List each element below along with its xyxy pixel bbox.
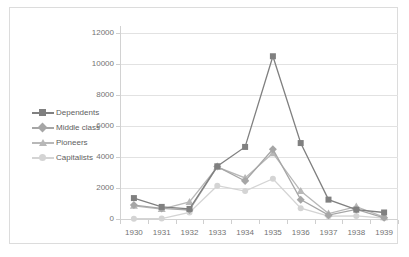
legend-key-icon (32, 123, 54, 133)
data-point-marker (353, 213, 359, 219)
data-point-marker (214, 183, 220, 189)
legend-item-middle-class[interactable]: Middle class (32, 120, 114, 135)
data-point-marker (214, 163, 220, 169)
series-line (134, 56, 384, 212)
series-middle-class (130, 145, 388, 222)
legend-marker-triangle (39, 139, 47, 146)
legend-marker-circle (39, 154, 46, 161)
legend-label: Middle class (54, 123, 100, 132)
legend-marker-diamond (38, 122, 48, 132)
data-point-marker (159, 204, 165, 210)
data-point-marker (353, 207, 359, 213)
data-point-marker (298, 205, 304, 211)
data-point-marker (242, 188, 248, 194)
legend-item-capitalists[interactable]: Capitalists (32, 150, 114, 165)
data-point-marker (270, 53, 276, 59)
data-point-marker (242, 144, 248, 150)
chart-container: 020004000600080001000012000 193019311932… (9, 7, 398, 244)
legend-item-pioneers[interactable]: Pioneers (32, 135, 114, 150)
legend-key-icon (32, 153, 54, 163)
data-point-marker (298, 140, 304, 146)
series-capitalists (131, 176, 387, 222)
chart-legend: DependentsMiddle classPioneersCapitalist… (32, 105, 114, 165)
legend-key-icon (32, 138, 54, 148)
data-point-marker (187, 206, 193, 212)
data-point-marker (270, 176, 276, 182)
data-point-marker (131, 216, 137, 222)
series-dependents (131, 53, 387, 215)
legend-label: Dependents (54, 108, 99, 117)
series-line (134, 179, 384, 219)
legend-key-icon (32, 108, 54, 118)
legend-marker-square (39, 109, 46, 116)
legend-label: Pioneers (54, 138, 88, 147)
legend-label: Capitalists (54, 153, 93, 162)
data-point-marker (326, 197, 332, 203)
data-point-marker (297, 196, 305, 204)
data-point-marker (131, 195, 137, 201)
data-point-marker (159, 216, 165, 222)
data-point-marker (381, 209, 387, 215)
legend-item-dependents[interactable]: Dependents (32, 105, 114, 120)
plot-area: 020004000600080001000012000 193019311932… (10, 8, 399, 245)
